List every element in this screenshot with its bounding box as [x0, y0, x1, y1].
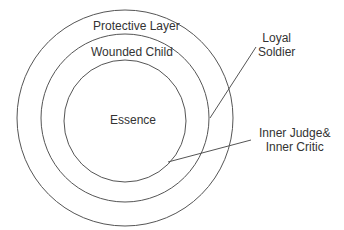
inner-judge-label: Inner Judge& Inner Critic: [259, 126, 330, 154]
inner-judge-line2: Inner Critic: [259, 140, 330, 154]
essence-label: Essence: [110, 113, 156, 127]
inner-judge-pointer-line: [168, 140, 251, 162]
inner-judge-line1: Inner Judge&: [259, 126, 330, 140]
wounded-child-label: Wounded Child: [91, 45, 173, 59]
loyal-soldier-line2: Soldier: [258, 45, 295, 59]
loyal-soldier-label: Loyal Soldier: [258, 31, 295, 59]
loyal-soldier-line1: Loyal: [258, 31, 295, 45]
protective-layer-label: Protective Layer: [93, 19, 180, 33]
loyal-soldier-pointer-line: [210, 47, 256, 118]
